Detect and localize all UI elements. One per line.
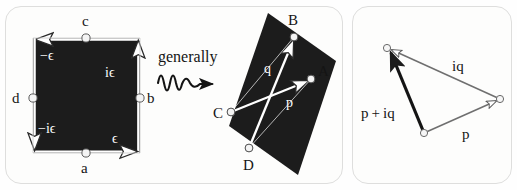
panel-right-container [352,6,512,184]
panel-left-container [5,6,343,184]
figure-root: c b a d −ϵ iϵ −iϵ ϵ generally [0,0,517,190]
